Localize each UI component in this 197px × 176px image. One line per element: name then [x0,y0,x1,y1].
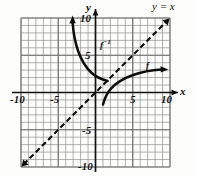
coordinate-plane [0,0,197,176]
x-tick-neg-10: -10 [10,94,25,105]
graph-screenshot: x y y = x f f−1 -10 -5 5 10 10 5 -5 -10 [0,0,197,176]
curve-f-inverse-label: f−1 [100,39,111,50]
x-axis-label: x [180,86,186,97]
y-tick-neg-10: -10 [78,161,93,172]
x-tick-pos-10: 10 [161,94,172,105]
curve-f-inverse-exponent: −1 [103,38,111,46]
x-tick-neg-5: -5 [50,94,59,105]
line-equation-label: y = x [152,1,175,12]
y-tick-pos-10: 10 [80,13,91,24]
curve-f-label: f [146,61,149,70]
y-tick-neg-5: -5 [82,125,91,136]
y-tick-pos-5: 5 [85,50,91,61]
x-tick-pos-5: 5 [130,94,136,105]
